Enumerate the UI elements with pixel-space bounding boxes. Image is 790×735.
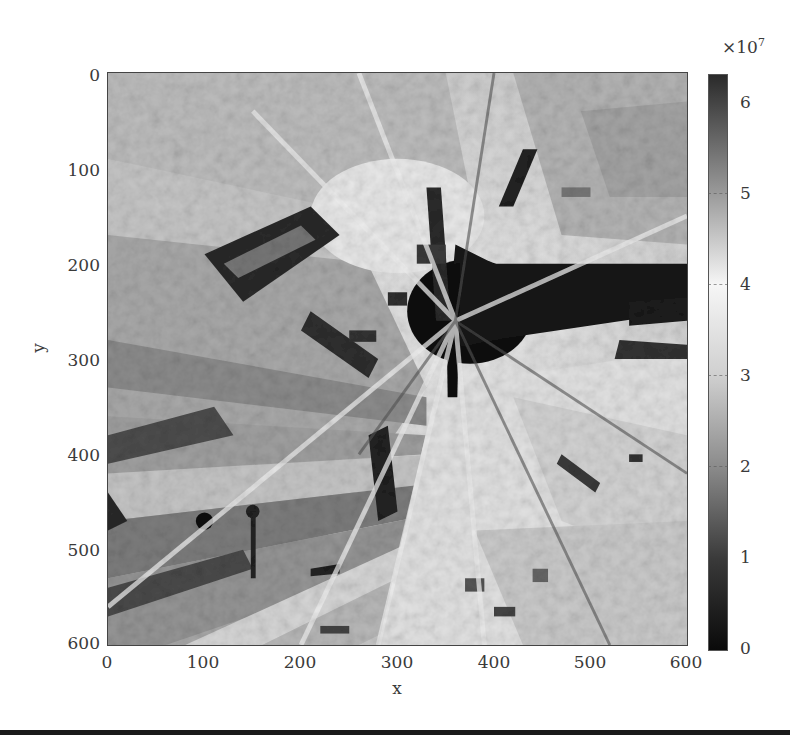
y-tick-label: 0 (40, 65, 100, 85)
bottom-border-strip (0, 730, 790, 735)
y-tick-label: 300 (40, 350, 100, 370)
colorbar-tick-label: 5 (740, 183, 751, 203)
colorbar-tick-label: 2 (740, 456, 751, 476)
x-tick-label: 100 (187, 652, 219, 672)
y-tick-label: 400 (40, 445, 100, 465)
colorbar-tick-mark (708, 375, 728, 376)
x-tick-label: 0 (102, 652, 113, 672)
y-tick-label: 600 (40, 633, 100, 653)
colorbar (708, 74, 728, 651)
colorbar-tick-label: 1 (740, 547, 751, 567)
x-axis-label: x (392, 678, 402, 698)
colorbar-tick-mark (708, 193, 728, 194)
colorbar-tick-mark (708, 284, 728, 285)
y-tick-label: 100 (40, 160, 100, 180)
y-axis-label: y (28, 343, 48, 353)
colorbar-tick-label: 6 (740, 92, 751, 112)
x-tick-label: 500 (574, 652, 606, 672)
x-tick-label: 300 (381, 652, 413, 672)
y-tick-label: 200 (40, 255, 100, 275)
colorbar-tick-mark (708, 466, 728, 467)
heatmap-image (107, 72, 688, 646)
figure: ×107 (0, 0, 790, 735)
x-tick-label: 600 (670, 652, 702, 672)
x-tick-label: 200 (284, 652, 316, 672)
colorbar-tick-label: 0 (740, 638, 751, 658)
heatmap-render (108, 73, 687, 645)
colorbar-tick-label: 4 (740, 274, 751, 294)
x-tick-label: 400 (478, 652, 510, 672)
colorbar-exponent: ×107 (722, 36, 765, 57)
colorbar-tick-label: 3 (740, 365, 751, 385)
y-tick-label: 500 (40, 540, 100, 560)
